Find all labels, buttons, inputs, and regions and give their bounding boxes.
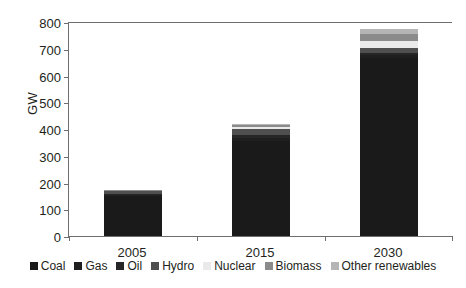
y-axis-tick: [64, 210, 69, 211]
legend-item-biomass[interactable]: Biomass: [265, 259, 322, 273]
legend-label: Hydro: [162, 259, 194, 273]
y-axis-tick: [64, 103, 69, 104]
y-axis-tick-label: 0: [54, 231, 61, 244]
stacked-bar-chart: GW 0100200300400500600700800 20052015203…: [0, 0, 466, 288]
legend-swatch-icon: [30, 262, 38, 270]
bar-segment-coal[interactable]: [104, 196, 162, 236]
legend-label: Gas: [85, 259, 107, 273]
x-axis-label-2005: 2005: [77, 245, 187, 260]
y-axis-tick: [64, 77, 69, 78]
legend-item-other-renewables[interactable]: Other renewables: [331, 259, 437, 273]
y-axis-tick-label: 400: [39, 124, 61, 137]
legend-item-coal[interactable]: Coal: [30, 259, 66, 273]
y-axis-tick: [64, 157, 69, 158]
legend-swatch-icon: [265, 262, 273, 270]
legend-label: Nuclear: [214, 259, 255, 273]
legend-item-gas[interactable]: Gas: [74, 259, 107, 273]
chart-legend: CoalGasOilHydroNuclearBiomassOther renew…: [0, 259, 466, 273]
y-axis-title: GW: [25, 74, 40, 134]
y-axis-tick-label: 300: [39, 150, 61, 163]
x-axis-line: [68, 236, 453, 237]
y-axis-tick: [64, 23, 69, 24]
legend-label: Biomass: [276, 259, 322, 273]
y-axis-tick-label: 500: [39, 97, 61, 110]
bar-segment-coal[interactable]: [360, 58, 418, 236]
bar-segment-biomass[interactable]: [360, 34, 418, 41]
y-axis-tick: [64, 50, 69, 51]
y-axis-tick-label: 200: [39, 177, 61, 190]
x-axis-label-2015: 2015: [205, 245, 315, 260]
x-axis-label-2030: 2030: [333, 245, 443, 260]
legend-label: Other renewables: [342, 259, 437, 273]
plot-area: 0100200300400500600700800: [68, 22, 452, 236]
legend-swatch-icon: [74, 262, 82, 270]
y-axis-tick-label: 700: [39, 43, 61, 56]
bar-segment-nuclear[interactable]: [360, 41, 418, 48]
legend-label: Coal: [41, 259, 66, 273]
legend-label: Oil: [127, 259, 142, 273]
bar-2030[interactable]: [360, 29, 418, 236]
legend-item-nuclear[interactable]: Nuclear: [203, 259, 255, 273]
legend-swatch-icon: [203, 262, 211, 270]
y-axis-tick-label: 600: [39, 70, 61, 83]
y-axis-tick: [64, 184, 69, 185]
legend-swatch-icon: [116, 262, 124, 270]
bar-segment-coal[interactable]: [232, 141, 290, 236]
legend-swatch-icon: [331, 262, 339, 270]
legend-swatch-icon: [151, 262, 159, 270]
bar-2005[interactable]: [104, 190, 162, 236]
bar-2015[interactable]: [232, 124, 290, 236]
y-axis-tick: [64, 130, 69, 131]
y-axis-tick-label: 100: [39, 204, 61, 217]
legend-item-hydro[interactable]: Hydro: [151, 259, 194, 273]
y-axis-tick-label: 800: [39, 17, 61, 30]
legend-item-oil[interactable]: Oil: [116, 259, 142, 273]
